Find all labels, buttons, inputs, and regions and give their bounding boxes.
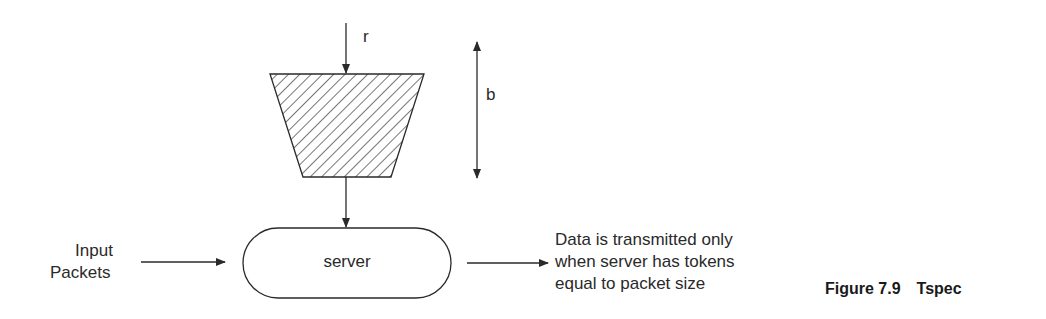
output-text-line1: Data is transmitted only bbox=[555, 229, 733, 251]
figure-title: Tspec bbox=[917, 280, 962, 297]
figure-caption: Figure 7.9Tspec bbox=[825, 280, 962, 298]
server-label: server bbox=[243, 252, 451, 272]
output-text-line3: equal to packet size bbox=[555, 273, 705, 295]
diagram-canvas bbox=[0, 0, 1046, 319]
figure-number: Figure 7.9 bbox=[825, 280, 901, 297]
output-text-line2: when server has tokens bbox=[555, 251, 735, 273]
input-label-line2: Packets bbox=[50, 262, 110, 284]
token-bucket bbox=[270, 74, 424, 177]
rate-label: r bbox=[363, 26, 369, 48]
input-label-line1: Input bbox=[65, 240, 123, 262]
bucket-depth-label: b bbox=[486, 84, 495, 106]
